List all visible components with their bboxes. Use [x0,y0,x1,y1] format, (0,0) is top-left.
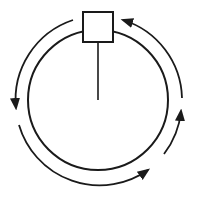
top-left-arrow [16,20,73,108]
rotation-diagram [0,0,222,203]
bottom-left-arrow [19,125,148,185]
top-box [83,12,113,42]
top-right-arrow [123,20,182,98]
diagram-canvas [0,0,222,203]
